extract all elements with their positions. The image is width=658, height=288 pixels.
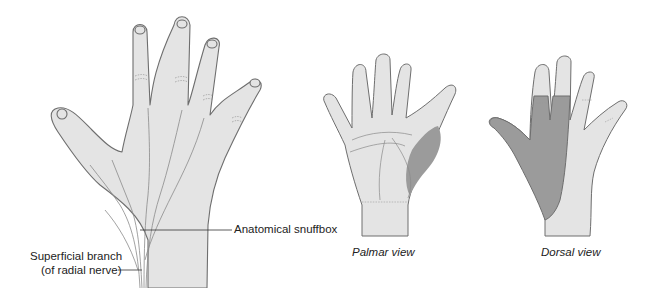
superficial-branch-label-line1: Superficial branch xyxy=(30,250,122,263)
dorsal-view-caption: Dorsal view xyxy=(541,246,600,258)
palmar-view-hand xyxy=(324,54,456,236)
large-hand-nerve-anatomy xyxy=(51,17,261,288)
hand-illustrations xyxy=(0,0,658,288)
palmar-view-caption: Palmar view xyxy=(352,246,415,258)
superficial-branch-label-line2: (of radial nerve) xyxy=(41,264,122,277)
nail xyxy=(250,79,260,87)
dorsal-view-hand xyxy=(489,56,627,236)
anatomical-snuffbox-label: Anatomical snuffbox xyxy=(234,223,337,236)
nail xyxy=(177,20,187,28)
nail xyxy=(207,40,217,48)
dorsal-shaded-territory xyxy=(490,96,570,220)
nail xyxy=(57,109,67,119)
nail xyxy=(135,26,145,34)
